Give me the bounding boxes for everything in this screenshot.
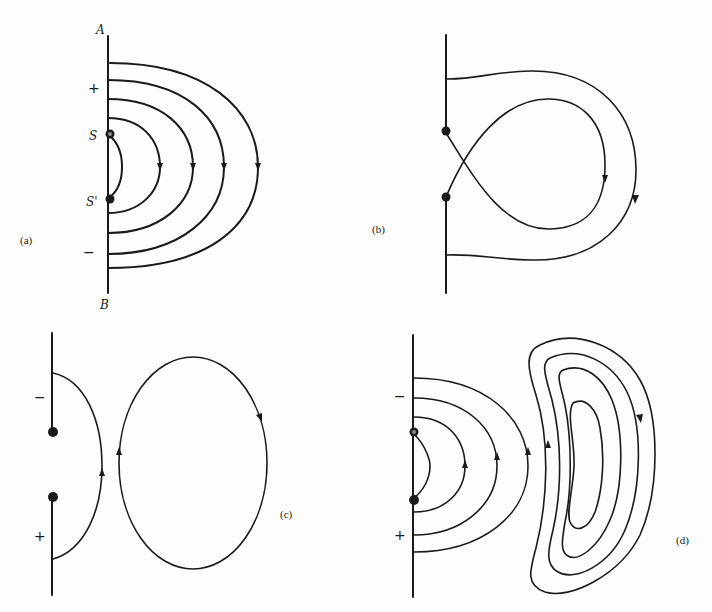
- panel-label-c: (c): [280, 508, 293, 521]
- sign-minus: −: [83, 244, 95, 260]
- diagram-canvas: A B + S S' − (a) (b): [0, 0, 712, 612]
- arrow-up-icon: [462, 460, 468, 468]
- panel-b: (b): [372, 35, 639, 293]
- field-arc-3: [414, 378, 528, 552]
- sign-minus: −: [394, 388, 406, 404]
- label-s-prime: S': [86, 195, 98, 209]
- field-arc-3: [108, 80, 224, 254]
- arrow-up-icon: [545, 440, 551, 448]
- source-lower-dot: [442, 193, 451, 202]
- panel-a: A B + S S' − (a): [20, 23, 261, 312]
- panel-label-b: (b): [372, 223, 385, 236]
- arrow-up-icon: [99, 468, 105, 476]
- field-arc: [53, 373, 102, 559]
- figure-eight-loop: [446, 99, 605, 229]
- arrow-up-icon: [116, 447, 122, 455]
- closed-loop: [119, 357, 267, 569]
- crescent-loop-3: [559, 368, 621, 557]
- field-arc-4: [108, 63, 258, 268]
- field-arc-inner: [110, 136, 122, 197]
- source-positive-dot: [409, 495, 419, 505]
- arrow-icons-a: [157, 163, 261, 171]
- panel-c: − + (c): [34, 333, 293, 595]
- arrow-down-icon: [256, 413, 262, 422]
- arrow-down-icon: [221, 163, 227, 171]
- panel-label-a: (a): [20, 234, 33, 247]
- crescent-loop-4: [569, 401, 603, 528]
- arrow-down-icon: [157, 163, 163, 171]
- panel-label-d: (d): [676, 534, 689, 547]
- field-arc-inner: [414, 434, 430, 498]
- arrow-icons-c: [99, 413, 262, 476]
- crescent-loop-2: [545, 354, 639, 575]
- source-s-prime-dot: [106, 195, 115, 204]
- arrow-down-icon: [636, 414, 643, 423]
- arrow-down-icon: [632, 195, 639, 204]
- figure: A B + S S' − (a) (b): [0, 0, 712, 612]
- crescent-loop-1: [529, 338, 655, 593]
- arrow-down-icon: [602, 175, 608, 183]
- panel-d: − + (d): [394, 335, 689, 597]
- sign-plus: +: [34, 528, 46, 544]
- source-positive-dot: [48, 492, 58, 502]
- source-negative-dot: [48, 427, 58, 437]
- arrow-down-icon: [255, 163, 261, 171]
- field-arc-1: [414, 417, 465, 512]
- label-a-top: A: [95, 23, 105, 37]
- label-s: S: [89, 129, 97, 143]
- source-upper-dot: [442, 127, 451, 136]
- label-b-bottom: B: [99, 298, 109, 312]
- arrow-down-icon: [190, 163, 196, 171]
- sign-plus: +: [88, 80, 100, 96]
- arrow-icons-d: [462, 414, 643, 468]
- sign-plus: +: [394, 527, 406, 543]
- arrow-up-icon: [494, 452, 500, 460]
- sign-minus: −: [34, 389, 46, 405]
- field-arc-1: [108, 118, 160, 213]
